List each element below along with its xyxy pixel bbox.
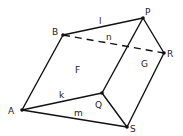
vertex-q <box>100 91 104 95</box>
vertex-label-p: P <box>145 7 151 17</box>
edge-pr <box>143 18 164 53</box>
edge-label-n: n <box>106 32 112 42</box>
vertex-r <box>162 51 166 55</box>
edge-br <box>63 35 164 53</box>
vertex-b <box>61 33 65 37</box>
edge-label-l: l <box>99 16 102 26</box>
edge-ab <box>22 35 63 110</box>
edges <box>22 18 164 127</box>
edge-bp <box>63 18 143 35</box>
vertex-label-q: Q <box>95 100 102 110</box>
edge-pq <box>102 18 143 93</box>
vertex-label-b: B <box>52 27 58 37</box>
edge-label-k: k <box>59 90 65 100</box>
edge-qs <box>102 93 127 127</box>
prism-diagram: A B P R Q S l n k m F G <box>0 0 183 136</box>
vertex-s <box>125 125 129 129</box>
face-label-g: G <box>141 59 148 69</box>
vertex-label-r: R <box>167 49 173 59</box>
edge-label-m: m <box>74 108 83 118</box>
face-label-f: F <box>75 65 80 75</box>
vertex-label-a: A <box>8 106 15 116</box>
vertex-a <box>20 108 24 112</box>
vertex-label-s: S <box>130 124 136 134</box>
